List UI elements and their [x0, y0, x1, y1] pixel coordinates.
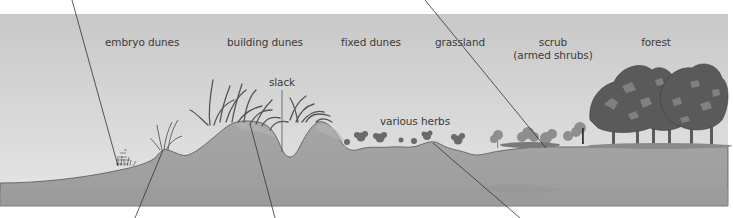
zone-label-embryo-dunes: embryo dunes	[105, 36, 175, 49]
zone-label-scrub: scrub	[513, 36, 593, 49]
diagram-graphic: ww xx	[0, 0, 733, 218]
zone-label-building-dunes: building dunes	[225, 36, 305, 49]
zone-label-forest: forest	[631, 36, 681, 49]
zone-label-grassland: grassland	[430, 36, 490, 49]
dune-succession-diagram: ww xx	[0, 0, 733, 218]
annotation-various-herbs: various herbs	[380, 115, 450, 128]
zone-label-fixed-dunes: fixed dunes	[336, 36, 406, 49]
annotation-slack: slack	[264, 76, 300, 89]
zone-sublabel-armed-shrubs: (armed shrubs)	[508, 49, 598, 62]
